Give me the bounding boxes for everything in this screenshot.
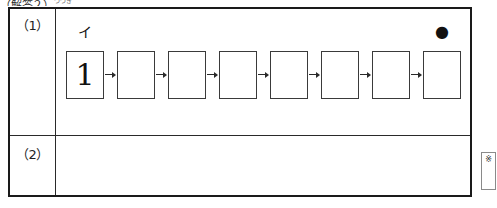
box-flow-chain: 1 bbox=[66, 51, 461, 99]
row-label-2: （2） bbox=[10, 136, 56, 195]
table-row: （2） bbox=[10, 135, 470, 195]
row-1-answer-area[interactable]: イ ● 1 bbox=[56, 9, 470, 135]
heading-note: つづき bbox=[54, 0, 72, 4]
row-label-1: （1） bbox=[10, 9, 56, 135]
kome-marker-box[interactable]: ※ bbox=[481, 152, 496, 190]
flow-box-5[interactable] bbox=[270, 51, 308, 99]
arrow-right-icon bbox=[155, 69, 168, 81]
answer-table: （1） イ ● 1 bbox=[8, 7, 472, 197]
table-row: （1） イ ● 1 bbox=[10, 9, 470, 135]
flow-box-4[interactable] bbox=[219, 51, 257, 99]
flow-box-1[interactable]: 1 bbox=[66, 51, 104, 99]
arrow-right-icon bbox=[410, 69, 423, 81]
row-label-2-text: （2） bbox=[16, 144, 49, 163]
flow-box-6[interactable] bbox=[321, 51, 359, 99]
arrow-right-icon bbox=[206, 69, 219, 81]
flow-box-8[interactable] bbox=[423, 51, 461, 99]
box-mark-kana-i: イ bbox=[66, 25, 104, 39]
arrow-right-icon bbox=[308, 69, 321, 81]
row-label-1-text: （1） bbox=[16, 15, 49, 34]
flow-box-3[interactable] bbox=[168, 51, 206, 99]
flow-box-7[interactable] bbox=[372, 51, 410, 99]
heading-strip: （解答２）つづき bbox=[0, 0, 140, 6]
arrow-right-icon bbox=[104, 69, 117, 81]
heading-text: （解答２） bbox=[0, 0, 54, 6]
arrow-right-icon bbox=[257, 69, 270, 81]
flow-box-2[interactable] bbox=[117, 51, 155, 99]
box-mark-filled-circle: ● bbox=[423, 25, 461, 39]
kome-icon: ※ bbox=[485, 156, 492, 164]
arrow-right-icon bbox=[359, 69, 372, 81]
row-2-answer-area[interactable] bbox=[56, 136, 470, 195]
flow-box-1-value: 1 bbox=[75, 60, 94, 90]
